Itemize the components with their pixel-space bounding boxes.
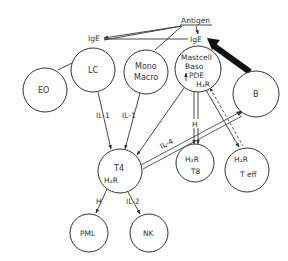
node-mono-label: Mono: [135, 62, 157, 71]
node-mono-macro: Mono Macro: [124, 50, 168, 94]
node-mastcell-label: Mastcell: [181, 53, 212, 62]
node-lc-label: LC: [88, 66, 98, 75]
il2-label: IL-2: [126, 197, 140, 206]
node-teff-label: T eff: [239, 170, 258, 179]
node-macro-label: Macro: [134, 73, 158, 82]
node-nk-label: NK: [143, 229, 155, 238]
ige-left-label: IgE: [88, 34, 100, 43]
immune-cell-diagram: Antigen IgE IgE IL-1 IL-1 IL-4 H H IL-2 …: [0, 0, 288, 261]
node-mast-h2r-label: H₂R: [196, 80, 210, 89]
node-t8: H₂R T8: [176, 144, 214, 182]
node-t8-h2r-label: H₂R: [185, 155, 199, 164]
h-mast-t8-label: H: [192, 120, 198, 129]
edge-antigen-ige-left-2: [104, 26, 182, 40]
node-eo: EO: [23, 68, 67, 112]
node-t-eff: H₂R T eff: [225, 148, 269, 192]
node-pde-label: PDE: [189, 71, 204, 80]
il1-right-label: IL-1: [122, 111, 136, 120]
node-b: B: [233, 71, 279, 117]
node-b-label: B: [253, 90, 259, 99]
node-mastcell: Mastcell Baso PDE H₂R: [175, 46, 221, 92]
il1-left-label: IL-1: [96, 111, 110, 120]
edge-antigen-ige-right: [196, 26, 198, 34]
edge-lc-eo: [58, 63, 72, 70]
node-pml: PML: [70, 214, 108, 252]
node-nk: NK: [130, 214, 168, 252]
node-teff-h2r-label: H₂R: [234, 155, 248, 164]
node-t8-label: T8: [190, 167, 201, 176]
node-lc: LC: [71, 48, 115, 92]
node-pml-label: PML: [80, 229, 96, 238]
antigen-label: Antigen: [181, 16, 210, 25]
h-t4-pml-label: H: [96, 197, 102, 206]
node-t4-label: T4: [113, 164, 124, 173]
edge-mono-t4: [125, 93, 140, 149]
ige-right-label: IgE: [190, 35, 202, 44]
node-eo-label: EO: [38, 86, 49, 95]
node-t4-h2r-label: H₂R: [104, 176, 118, 185]
node-t4: T4 H₂R: [98, 149, 142, 193]
node-baso-label: Baso: [185, 62, 204, 71]
edge-lc-t4: [98, 92, 111, 149]
